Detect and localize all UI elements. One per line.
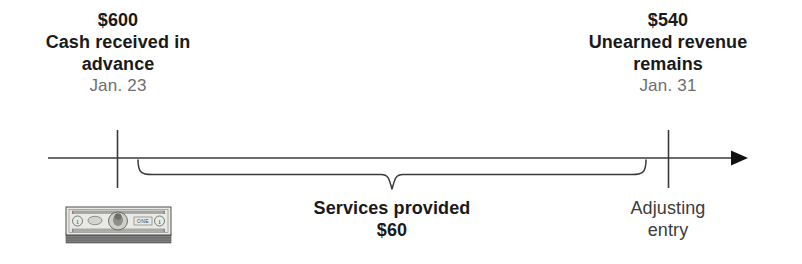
event-label-unearned-remains: $540 Unearned revenue remains Jan. 31 (556, 10, 780, 97)
dollar-bill-icon: 1 1 ONE 1 1 1 1 (64, 205, 173, 244)
span-label-services-provided: Services provided $60 (272, 198, 512, 242)
cash-received-date: Jan. 23 (8, 76, 228, 97)
adjusting-entry-line2: entry (598, 220, 738, 242)
services-brace (138, 160, 646, 189)
cash-received-description-line2: advance (8, 54, 228, 76)
services-provided-amount: $60 (272, 220, 512, 242)
event-label-cash-received: $600 Cash received in advance Jan. 23 (8, 10, 228, 97)
services-provided-label: Services provided (272, 198, 512, 220)
unearned-remains-date: Jan. 31 (556, 76, 780, 97)
timeline-arrowhead-icon (731, 151, 748, 166)
adjusting-entry-label: Adjusting entry (598, 198, 738, 242)
unearned-remains-amount: $540 (556, 10, 780, 32)
unearned-remains-description-line2: remains (556, 54, 780, 76)
adjusting-entry-line1: Adjusting (598, 198, 738, 220)
svg-text:1: 1 (158, 218, 162, 226)
cash-received-amount: $600 (8, 10, 228, 32)
money-stack-icon: 1 1 ONE 1 1 1 1 (64, 205, 173, 244)
unearned-remains-description-line1: Unearned revenue (556, 32, 780, 54)
cash-received-description-line1: Cash received in (8, 32, 228, 54)
timeline-diagram: 1 1 ONE 1 1 1 1 $600 Cash received in ad… (0, 0, 802, 264)
svg-text:1: 1 (76, 218, 80, 226)
svg-text:ONE: ONE (137, 218, 150, 224)
